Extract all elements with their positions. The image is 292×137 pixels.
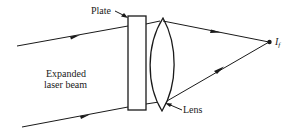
ray-segment-top <box>146 21 160 24</box>
arrow-icon <box>210 30 221 34</box>
lens <box>150 18 174 111</box>
focus-label-sub: f <box>278 41 281 49</box>
focus-label: If <box>274 36 281 49</box>
optics-diagram: If Plate Expanded laser beam Lens <box>0 0 292 137</box>
incoming-ray-bottom <box>22 107 128 127</box>
focal-point <box>267 40 271 44</box>
plate <box>128 16 146 110</box>
outgoing-ray-top <box>163 21 269 42</box>
plate-pointer-arrow-icon <box>121 13 128 18</box>
plate-label: Plate <box>91 5 112 16</box>
lens-pointer-arrow-icon <box>165 103 172 107</box>
outgoing-ray-bottom <box>167 42 269 101</box>
beam-label-line2: laser beam <box>44 79 87 90</box>
lens-label: Lens <box>183 104 203 115</box>
beam-label-line1: Expanded <box>46 68 86 79</box>
incoming-ray-top <box>17 26 128 46</box>
